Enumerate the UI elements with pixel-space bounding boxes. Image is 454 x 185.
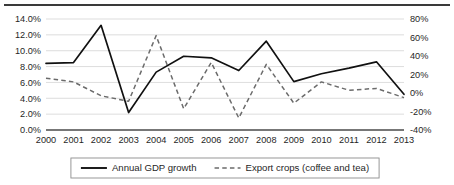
gridlines-group bbox=[46, 19, 404, 130]
line-chart: 0.0%2.0%4.0%6.0%8.0%10.0%12.0%14.0% -40%… bbox=[0, 0, 454, 185]
y-axis-right-tick-label: 0% bbox=[410, 88, 423, 98]
x-axis-tick-label: 2010 bbox=[311, 135, 331, 145]
series-line-dashed bbox=[46, 36, 404, 118]
y-axis-left-tick-label: 8.0% bbox=[20, 62, 41, 72]
x-axis-tick-label: 2012 bbox=[366, 135, 386, 145]
y-axis-right-tick-label: 80% bbox=[410, 14, 428, 24]
x-axis-tick-label: 2005 bbox=[173, 135, 193, 145]
x-axis-tick-label: 2007 bbox=[229, 135, 249, 145]
series-group bbox=[46, 25, 404, 118]
x-axis-tick-label: 2011 bbox=[339, 135, 359, 145]
y-axis-left-tick-label: 14.0% bbox=[15, 14, 41, 24]
y-axis-left-ticks: 0.0%2.0%4.0%6.0%8.0%10.0%12.0%14.0% bbox=[15, 14, 41, 135]
x-axis-tick-label: 2008 bbox=[256, 135, 276, 145]
y-axis-right-tick-label: 40% bbox=[410, 51, 428, 61]
y-axis-left-tick-label: 4.0% bbox=[20, 94, 41, 104]
series-line-solid bbox=[46, 25, 404, 112]
x-axis-tick-label: 2006 bbox=[201, 135, 221, 145]
x-axis-ticks: 2000200120022003200420052006200720082009… bbox=[36, 135, 414, 145]
chart-legend: Annual GDP growthExport crops (coffee an… bbox=[71, 158, 379, 178]
y-axis-left-tick-label: 10.0% bbox=[15, 46, 41, 56]
y-axis-right-ticks: -40%-20%0%20%40%60%80% bbox=[410, 14, 431, 135]
legend-label: Annual GDP growth bbox=[112, 162, 197, 173]
legend-label: Export crops (coffee and tea) bbox=[246, 162, 370, 173]
x-axis-tick-label: 2003 bbox=[118, 135, 138, 145]
y-axis-left-tick-label: 2.0% bbox=[20, 109, 41, 119]
x-axis-tick-label: 2013 bbox=[394, 135, 414, 145]
x-axis-tick-label: 2009 bbox=[284, 135, 304, 145]
x-axis-tick-label: 2001 bbox=[63, 135, 83, 145]
y-axis-left-tick-label: 6.0% bbox=[20, 78, 41, 88]
y-axis-right-tick-label: 20% bbox=[410, 70, 428, 80]
y-axis-right-tick-label: -20% bbox=[410, 107, 431, 117]
x-axis-tick-label: 2002 bbox=[91, 135, 111, 145]
y-axis-right-tick-label: 60% bbox=[410, 33, 428, 43]
y-axis-left-tick-label: 12.0% bbox=[15, 30, 41, 40]
x-axis-tick-label: 2000 bbox=[36, 135, 56, 145]
x-axis-tick-label: 2004 bbox=[146, 135, 166, 145]
